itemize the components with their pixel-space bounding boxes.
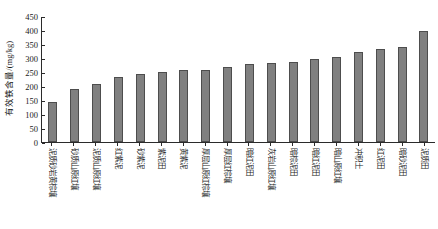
bar	[398, 47, 407, 142]
x-axis-tick-slot	[347, 143, 369, 147]
x-axis-tick-slot	[391, 143, 413, 147]
bar	[310, 59, 319, 142]
bar-slot	[64, 17, 86, 142]
x-axis-tick-slot	[194, 143, 216, 147]
x-axis-label-slot: 黄紫泥	[172, 148, 194, 228]
bar-slot	[86, 17, 108, 142]
x-axis-label-slot: 红紫泥	[107, 148, 129, 228]
y-axis-tick-mark	[42, 87, 45, 88]
x-axis-tick-mark	[227, 143, 228, 146]
bar	[376, 49, 385, 142]
x-axis-label-slot: 红泥田	[369, 148, 391, 228]
x-axis-category-label: 紫泥田	[158, 148, 166, 169]
x-axis-label-slot: 厚层山原红棕壤	[194, 148, 216, 228]
x-axis-tick-slot	[260, 143, 282, 147]
x-axis-tick-slot	[238, 143, 260, 147]
x-axis-tick-slot	[282, 143, 304, 147]
x-axis-tick-mark	[402, 143, 403, 146]
x-axis-category-label: 泥质砂岩黄棕壤	[48, 148, 56, 197]
x-axis-tick-slot	[413, 143, 435, 147]
x-axis-category-label: 暗红泥田	[245, 148, 253, 176]
x-axis-tick-slot	[41, 143, 63, 147]
y-axis-tick-mark	[42, 31, 45, 32]
bar-slot	[282, 17, 304, 142]
bar	[158, 72, 167, 142]
y-axis-tick-mark	[42, 73, 45, 74]
bar	[245, 64, 254, 142]
x-axis-tick-slot	[172, 143, 194, 147]
x-axis-tick-slot	[304, 143, 326, 147]
x-axis-tick-slot	[326, 143, 348, 147]
x-axis-tick-mark	[292, 143, 293, 146]
x-axis-tick-mark	[205, 143, 206, 146]
x-axis-category-label: 厚层山原红棕壤	[201, 148, 209, 197]
y-axis-tick-label: 300	[14, 55, 38, 64]
bar-slot	[173, 17, 195, 142]
y-axis-tick-label: 250	[14, 69, 38, 78]
x-axis-tick-mark	[183, 143, 184, 146]
bar	[289, 62, 298, 142]
x-axis-label-slot: 暗山原红壤	[326, 148, 348, 228]
x-axis-tick-slot	[216, 143, 238, 147]
bar-slot	[260, 17, 282, 142]
x-axis-category-label: 暗红泥田	[311, 148, 319, 176]
plot-area	[41, 17, 435, 143]
bar	[354, 52, 363, 142]
y-axis-tick-mark	[42, 45, 45, 46]
bar-slot	[413, 17, 435, 142]
bar-slot	[391, 17, 413, 142]
x-axis-category-label: 红紫泥	[114, 148, 122, 169]
y-axis-tick-label: 350	[14, 41, 38, 50]
x-axis-category-label: 暗山原红壤	[333, 148, 341, 183]
bar-slot	[195, 17, 217, 142]
x-axis-tick-slot	[369, 143, 391, 147]
x-axis-tick-marks	[41, 143, 435, 147]
y-axis-tick-label: 450	[14, 13, 38, 22]
x-axis-category-label: 暗砂泥田	[398, 148, 406, 176]
y-axis-tick-labels: 050100150200250300350400450	[14, 12, 38, 143]
x-axis-label-slot: 灰岩山原红壤	[260, 148, 282, 228]
bar	[223, 67, 232, 142]
y-axis-tick-label: 50	[14, 125, 38, 134]
x-axis-tick-mark	[314, 143, 315, 146]
y-axis-tick-mark	[42, 59, 45, 60]
x-axis-label-slot: 暗红泥田	[304, 148, 326, 228]
bar-chart: 有效铁含量/(mg/kg) 05010015020025030035040045…	[0, 0, 438, 229]
x-axis-label-slot: 暗砂泥田	[391, 148, 413, 228]
y-axis-tick-label: 0	[14, 139, 38, 148]
y-axis-tick-label: 400	[14, 27, 38, 36]
x-axis-category-label: 泥质山原红壤	[92, 148, 100, 190]
x-axis-label-slot: 泥质田	[413, 148, 435, 228]
bar-slot	[369, 17, 391, 142]
x-axis-category-label: 砂质山原红壤	[70, 148, 78, 190]
bar	[70, 89, 79, 142]
x-axis-tick-slot	[150, 143, 172, 147]
x-axis-tick-mark	[380, 143, 381, 146]
y-axis-tick-mark	[42, 17, 45, 18]
x-axis-category-label: 黄紫泥	[180, 148, 188, 169]
bar	[201, 70, 210, 142]
x-axis-tick-slot	[129, 143, 151, 147]
x-axis-tick-mark	[117, 143, 118, 146]
bar-series	[42, 17, 435, 142]
x-axis-label-slot: 暗红泥田	[238, 148, 260, 228]
x-axis-label-slot: 砂紫泥	[129, 148, 151, 228]
x-axis-label-slot: 泥质砂岩黄棕壤	[41, 148, 63, 228]
bar	[179, 70, 188, 142]
x-axis-tick-mark	[336, 143, 337, 146]
bar	[114, 77, 123, 142]
bar	[136, 74, 145, 142]
x-axis-tick-mark	[139, 143, 140, 146]
y-axis-tick-mark	[42, 101, 45, 102]
bar-slot	[326, 17, 348, 142]
x-axis-label-slot: 冲积土	[347, 148, 369, 228]
y-axis-tick-label: 100	[14, 111, 38, 120]
x-axis-tick-mark	[95, 143, 96, 146]
bar-slot	[107, 17, 129, 142]
bar-slot	[238, 17, 260, 142]
bar	[419, 31, 428, 142]
y-axis-tick-label: 150	[14, 97, 38, 106]
bar-slot	[151, 17, 173, 142]
bar	[48, 102, 57, 142]
x-axis-tick-mark	[161, 143, 162, 146]
